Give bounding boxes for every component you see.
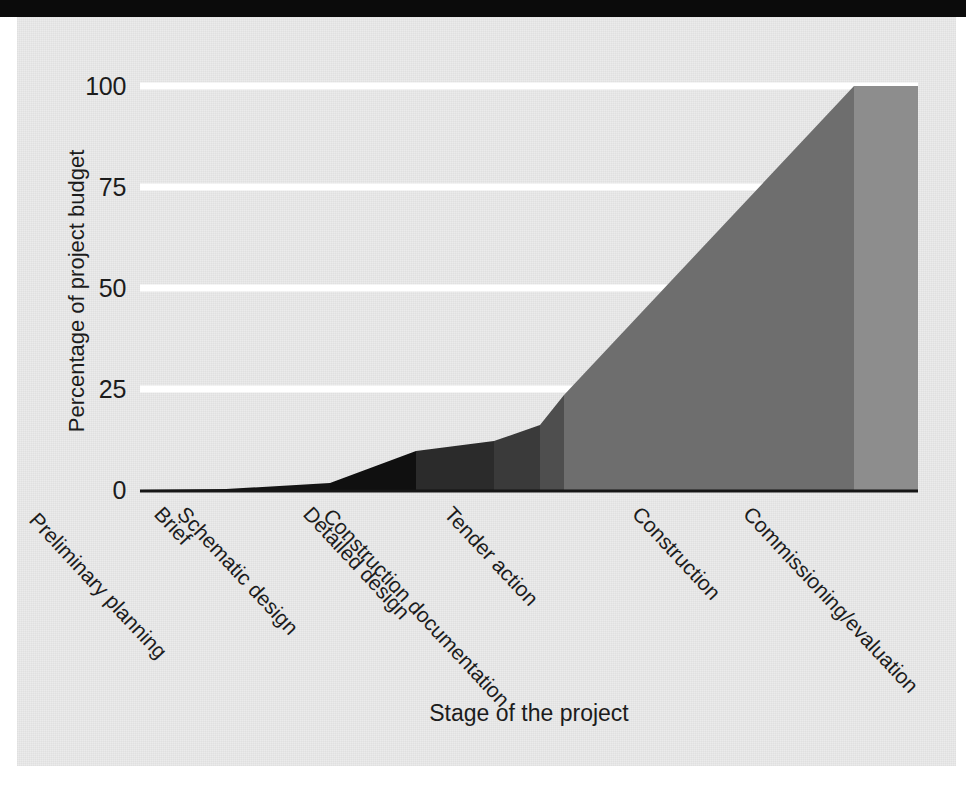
plot-area [140,80,918,496]
x-axis-title: Stage of the project [140,700,918,727]
chart-page: 100 75 50 25 0 Percentage of project bud… [0,0,966,808]
scan-artifact-right-edge [956,17,966,808]
scan-artifact-bottom-edge [0,766,966,808]
x-tick-label-schematic-design: Schematic design [172,502,303,640]
y-axis-title: Percentage of project budget [64,81,90,501]
x-axis-tick-labels: Preliminary planning Brief Schematic des… [140,496,918,696]
band-commissioning-evaluation [854,80,918,496]
x-tick-label-commissioning-evaluation: Commissioning/evaluation [738,502,923,698]
area-chart-svg [140,80,918,496]
x-tick-label-tender-action: Tender action [439,502,543,611]
x-tick-label-construction: Construction [627,502,725,605]
scan-artifact-left-edge [0,17,17,808]
scan-artifact-top-bar [0,0,966,17]
